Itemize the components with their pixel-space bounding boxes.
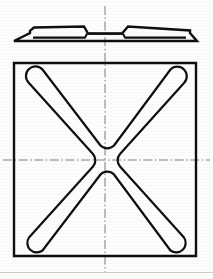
- drawing-sheet: [0, 0, 213, 279]
- x-rib-outline: [26, 66, 187, 252]
- front-elevation-view: [14, 27, 197, 42]
- elevation-right-pad-face: [123, 34, 186, 38]
- drawing-canvas: [0, 0, 213, 279]
- elevation-left-pad-face: [33, 34, 87, 38]
